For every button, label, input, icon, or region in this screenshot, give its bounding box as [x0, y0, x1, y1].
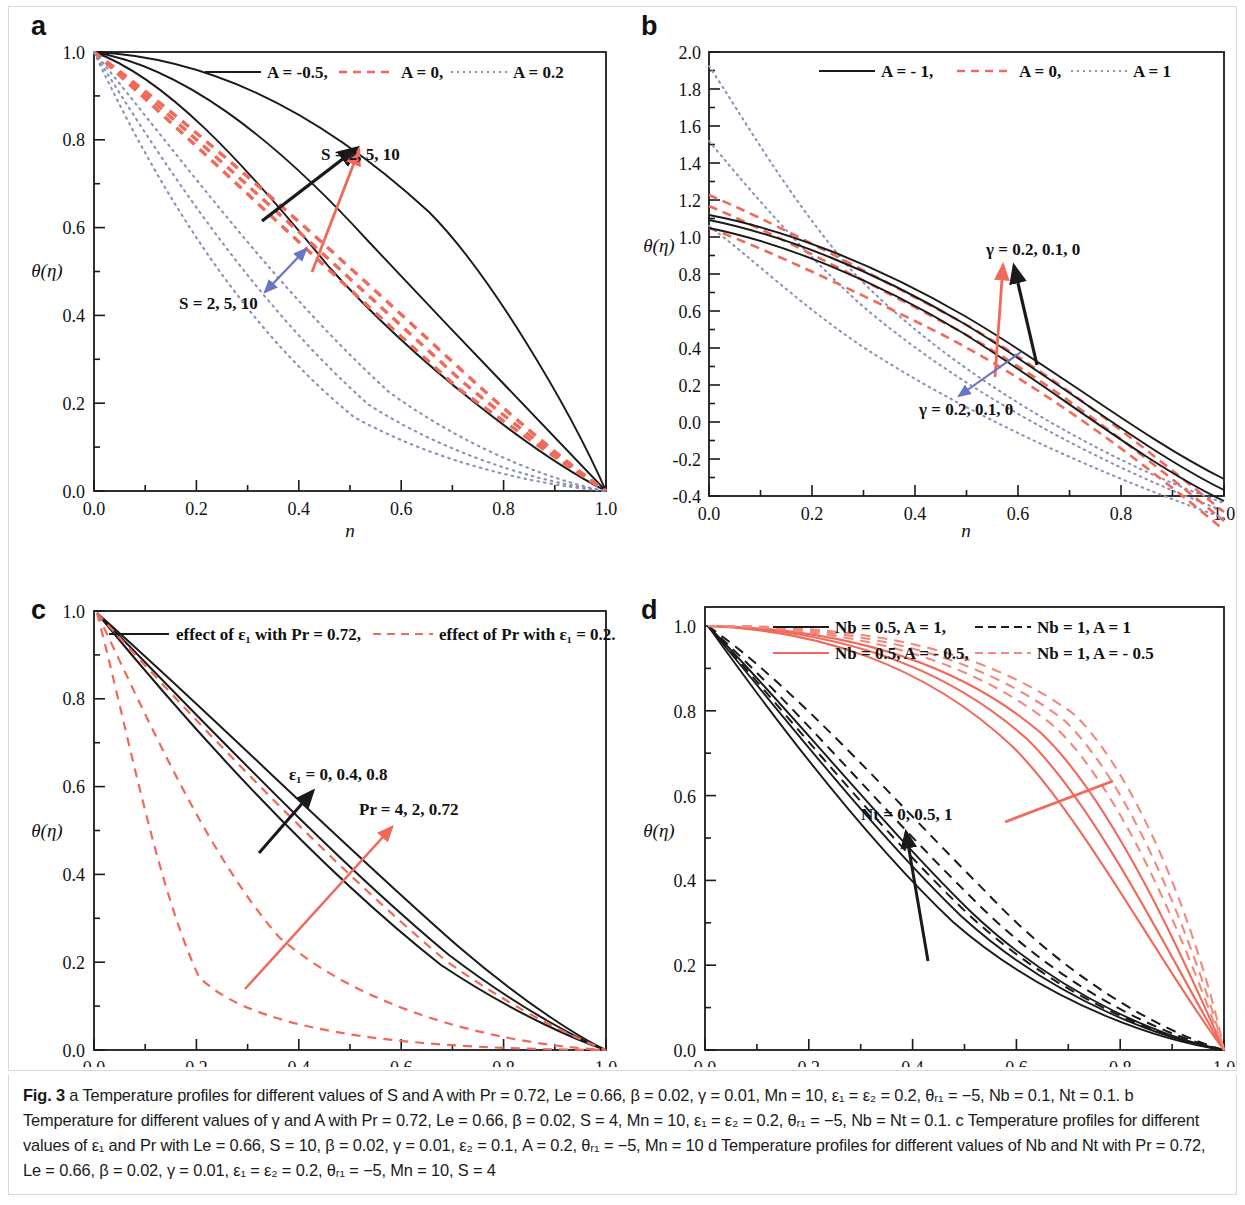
ytick-label: 0.2	[679, 376, 702, 396]
legend-label: A = 1	[1133, 62, 1171, 81]
xtick-label: 0.8	[1109, 1058, 1132, 1067]
annotation-label-c-1: ε₁ = 0, 0.4, 0.8	[289, 765, 388, 784]
legend-c: effect of ε₁ with Pr = 0.72, effect of P…	[109, 625, 616, 644]
legend-label: A = -0.5,	[267, 63, 328, 82]
legend-label: Nb = 0.5, A = 1,	[835, 618, 946, 637]
figure-image: a	[8, 6, 1237, 1071]
series-d-black-solid	[708, 626, 1224, 1050]
annotation-label-b-2: γ = 0.2, 0.1, 0	[918, 400, 1013, 419]
ytick-label: -0.4	[673, 487, 702, 507]
ytick-label: 2.0	[679, 43, 702, 63]
annotation-arrow-red-a	[312, 150, 359, 272]
xaxis-label-b: η	[961, 520, 970, 537]
ytick-label: 0.8	[63, 130, 86, 150]
ytick-label: 1.0	[679, 228, 702, 248]
panel-c-plot: 0.0 0.2 0.4 0.6 0.8 1.0 0.0 0.2 0.4 0.6 …	[9, 537, 623, 1067]
yaxis-label-d: θ(η)	[643, 820, 674, 842]
panel-a: a	[9, 7, 623, 537]
yaxis-label-b: θ(η)	[643, 235, 674, 257]
xtick-label: 0.6	[1007, 504, 1030, 524]
series-d-red-dashed	[708, 626, 1224, 1050]
xtick-label: 0.8	[492, 499, 515, 519]
annotation-arrow-black-b	[1014, 266, 1037, 365]
ytick-label: 0.6	[63, 777, 86, 797]
series-b-black	[709, 215, 1224, 501]
xtick-label: 0.4	[288, 499, 311, 519]
xtick-label: 1.0	[595, 499, 618, 519]
series-a-red	[94, 52, 606, 491]
figure-page: a	[0, 0, 1245, 1205]
annotation-arrow-red-b	[995, 265, 1003, 377]
ytick-label: 1.8	[679, 80, 702, 100]
annotation-arrow-red-c	[245, 827, 392, 989]
panel-b: b	[623, 7, 1238, 537]
ytick-label: 0.8	[674, 702, 697, 722]
xtick-label: 0.2	[185, 1058, 208, 1067]
yaxis-label-a: θ(η)	[31, 260, 62, 282]
legend-a: A = -0.5, A = 0, A = 0.2	[205, 63, 564, 82]
ytick-label: 0.4	[674, 871, 697, 891]
xtick-label: 0.6	[390, 1058, 413, 1067]
legend-b: A = - 1, A = 0, A = 1	[819, 62, 1171, 81]
ytick-label: 0.8	[679, 265, 702, 285]
xtick-label: 1.0	[595, 1058, 618, 1067]
ytick-label: 0.0	[679, 413, 702, 433]
series-b-blue	[709, 66, 1224, 518]
ytick-label: 0.0	[63, 1041, 86, 1061]
xtick-label: 0.2	[798, 1058, 821, 1067]
ytick-label: 0.8	[63, 689, 86, 709]
xtick-label: 0.4	[904, 504, 927, 524]
ytick-label: 1.4	[679, 154, 702, 174]
annotation-arrow-blue-a	[265, 249, 306, 292]
caption-figure-label: Fig. 3	[23, 1086, 65, 1104]
ytick-label: 1.0	[63, 602, 86, 622]
ytick-label: 0.6	[63, 218, 86, 238]
yaxis-label-c: θ(η)	[31, 820, 62, 842]
xtick-label: 0.8	[492, 1058, 515, 1067]
xtick-label: 1.0	[1213, 1058, 1236, 1067]
panel-a-plot: 0.0 0.2 0.4 0.6 0.8 1.0 0.0 0.2 0.4 0.6 …	[9, 7, 623, 537]
xtick-label: 0.0	[83, 499, 106, 519]
caption-a: a Temperature profiles for different val…	[65, 1086, 1120, 1104]
legend-label: effect of ε₁ with Pr = 0.72,	[176, 625, 361, 644]
panel-c: c 0.0	[9, 537, 623, 1067]
xtick-label: 0.4	[901, 1058, 924, 1067]
ytick-label: 1.0	[63, 43, 86, 63]
xtick-label: 0.0	[698, 504, 721, 524]
ytick-label: 1.6	[679, 117, 702, 137]
ytick-label: 0.4	[679, 339, 702, 359]
ytick-label: 0.2	[63, 394, 86, 414]
xtick-label: 0.0	[83, 1058, 106, 1067]
legend-label: A = - 1,	[881, 62, 933, 81]
figure-caption: Fig. 3 a Temperature profiles for differ…	[8, 1075, 1237, 1195]
annotation-label-c-2: Pr = 4, 2, 0.72	[359, 800, 459, 819]
annotation-label-a-2: S = 2, 5, 10	[179, 294, 258, 313]
legend-label: Nb = 0.5, A = - 0.5,	[835, 644, 969, 663]
legend-label: A = 0,	[1019, 62, 1061, 81]
ytick-label: 0.2	[63, 953, 86, 973]
ytick-label: 0.4	[63, 306, 86, 326]
panel-d: d 0.0	[623, 537, 1238, 1067]
xaxis-label-a: η	[345, 520, 354, 537]
ytick-label: 1.0	[674, 617, 697, 637]
annotation-label-d-1: Nt = 0, 0.5, 1	[861, 805, 952, 824]
ytick-label: 0.2	[674, 956, 697, 976]
plot-frame-b	[709, 52, 1224, 496]
xtick-label: 0.6	[390, 499, 413, 519]
ytick-label: -0.2	[673, 450, 702, 470]
ytick-label: 1.2	[679, 191, 702, 211]
ytick-label: 0.4	[63, 865, 86, 885]
xtick-label: 0.4	[288, 1058, 311, 1067]
series-d-red-solid	[708, 626, 1224, 1050]
series-c-red	[97, 613, 606, 1050]
panel-d-plot: 0.0 0.2 0.4 0.6 0.8 1.0 0.0 0.2 0.4 0.6 …	[623, 537, 1238, 1067]
ytick-label: 0.0	[674, 1041, 697, 1061]
series-d-black-dashed	[708, 626, 1224, 1050]
ytick-label: 0.6	[679, 302, 702, 322]
annotation-label-b-1: γ = 0.2, 0.1, 0	[985, 240, 1080, 259]
legend-label: A = 0,	[401, 63, 443, 82]
series-c-black	[97, 613, 606, 1050]
legend-label: Nb = 1, A = - 0.5	[1037, 644, 1154, 663]
xtick-label: 0.0	[694, 1058, 717, 1067]
xtick-label: 0.2	[185, 499, 208, 519]
